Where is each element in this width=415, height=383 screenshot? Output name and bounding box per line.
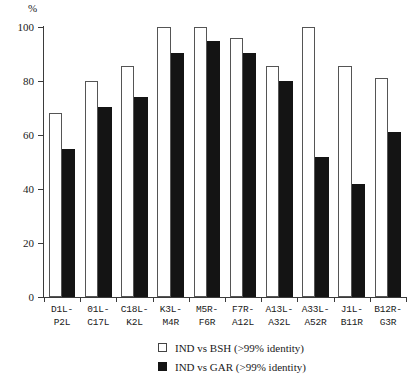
bar-group (157, 27, 184, 297)
bar-group (49, 27, 76, 297)
bar-group (375, 27, 402, 297)
bar-gar (171, 53, 184, 297)
x-axis-category-label-line: B12R- (367, 303, 409, 316)
legend-item-gar: IND vs GAR (>99% identity) (158, 357, 306, 376)
bar-bsh (266, 66, 279, 297)
bar-gar (279, 81, 292, 297)
bar-group (266, 27, 293, 297)
x-axis-tick-mark (370, 297, 371, 302)
y-axis-tick-mark (38, 297, 43, 298)
x-axis-tick-mark (189, 297, 190, 302)
y-axis-unit-label: % (28, 2, 37, 14)
bar-bsh (121, 66, 134, 297)
bar-bsh (157, 27, 170, 297)
x-axis-tick-mark (225, 297, 226, 302)
bar-gar (388, 132, 401, 297)
x-axis-tick-mark (334, 297, 335, 302)
x-axis-tick-mark (44, 297, 45, 302)
bar-group (338, 27, 365, 297)
y-axis-tick-mark (38, 81, 43, 82)
bar-chart: % 020406080100 D1L-P2L01L-C17LC18L-K2LK3… (0, 0, 415, 383)
legend-label-gar: IND vs GAR (>99% identity) (175, 361, 306, 373)
x-axis-tick-mark (80, 297, 81, 302)
y-axis-tick-label: 40 (0, 184, 34, 194)
bar-bsh (49, 113, 62, 297)
y-axis-tick-mark (38, 243, 43, 244)
bar-gar (98, 107, 111, 297)
y-axis-tick-label: 20 (0, 238, 34, 248)
bar-bsh (338, 66, 351, 297)
bar-group (121, 27, 148, 297)
bar-group (230, 27, 257, 297)
bar-gar (315, 157, 328, 297)
bar-bsh (85, 81, 98, 297)
bar-gar (134, 97, 147, 297)
bar-group (302, 27, 329, 297)
y-axis-tick-label: 0 (0, 292, 34, 302)
bar-group (85, 27, 112, 297)
x-axis-category-label: B12R-G3R (367, 303, 409, 329)
bars-layer (44, 27, 406, 297)
y-axis-tick-mark (38, 27, 43, 28)
bar-gar (352, 184, 365, 297)
x-axis-tick-mark (406, 297, 407, 302)
x-axis-tick-mark (261, 297, 262, 302)
bar-bsh (375, 78, 388, 297)
x-axis-tick-mark (153, 297, 154, 302)
x-axis-tick-mark (116, 297, 117, 302)
legend-item-bsh: IND vs BSH (>99% identity) (158, 338, 306, 357)
chart-legend: IND vs BSH (>99% identity) IND vs GAR (>… (158, 338, 306, 376)
y-axis-tick-label: 60 (0, 130, 34, 140)
x-axis-tick-mark (297, 297, 298, 302)
bar-gar (62, 149, 75, 298)
x-axis-labels: D1L-P2L01L-C17LC18L-K2LK3L-M4RM5R-F6RF7R… (44, 303, 406, 337)
bar-group (194, 27, 221, 297)
y-axis-tick-label: 80 (0, 76, 34, 86)
legend-label-bsh: IND vs BSH (>99% identity) (175, 342, 304, 354)
open-square-swatch-icon (158, 343, 167, 352)
bar-bsh (302, 27, 315, 297)
bar-bsh (194, 27, 207, 297)
x-axis-category-label-line: G3R (367, 316, 409, 329)
y-axis-tick-label: 100 (0, 22, 34, 32)
bar-bsh (230, 38, 243, 297)
filled-square-swatch-icon (158, 362, 167, 371)
bar-gar (207, 41, 220, 298)
y-axis-tick-mark (38, 189, 43, 190)
y-axis-tick-mark (38, 135, 43, 136)
bar-gar (243, 53, 256, 297)
